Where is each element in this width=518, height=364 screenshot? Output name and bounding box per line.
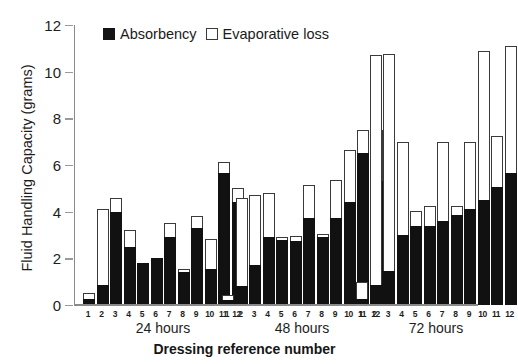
bar-segment-absorbency — [290, 241, 302, 305]
bar-segment-evaporative-loss — [397, 142, 409, 235]
y-tick-label: 2 — [53, 250, 61, 267]
y-tick-mark — [65, 165, 73, 166]
x-tick-label: 3 — [248, 309, 260, 319]
bar-segment-evaporative-loss — [249, 195, 261, 265]
x-tick-label: 7 — [302, 309, 314, 319]
y-tick-label: 6 — [53, 157, 61, 174]
x-tick-label: 2 — [369, 309, 381, 319]
y-tick-label: 10 — [44, 63, 61, 80]
bar[interactable] — [164, 223, 176, 305]
x-group-label: 72 hours — [355, 320, 517, 336]
bar[interactable] — [424, 206, 436, 305]
bar-segment-evaporative-loss — [424, 206, 436, 226]
bar-segment-absorbency — [330, 218, 342, 306]
x-tick-label: 7 — [163, 309, 175, 319]
x-tick-labels-24-hours: 123456789101112 — [82, 309, 244, 319]
bar-segment-absorbency — [424, 226, 436, 305]
bar[interactable] — [151, 258, 163, 305]
x-tick-label: 1 — [221, 309, 233, 319]
bar[interactable] — [290, 236, 302, 305]
bar[interactable] — [178, 269, 190, 305]
bar-segment-absorbency — [317, 237, 329, 305]
bar-segment-evaporative-loss — [164, 223, 176, 237]
x-axis-line — [74, 304, 478, 306]
x-tick-label: 11 — [490, 309, 502, 319]
bar-segment-absorbency — [137, 263, 149, 305]
bar-segment-evaporative-loss — [370, 55, 382, 285]
x-tick-label: 9 — [329, 309, 341, 319]
x-tick-label: 4 — [396, 309, 408, 319]
x-tick-label: 2 — [235, 309, 247, 319]
bar-segment-absorbency — [249, 265, 261, 305]
bar[interactable] — [505, 46, 517, 305]
x-tick-label: 6 — [150, 309, 162, 319]
bar[interactable] — [276, 237, 288, 305]
bar[interactable] — [236, 198, 248, 305]
x-group-label: 24 hours — [82, 320, 244, 336]
bar-segment-absorbency — [191, 228, 203, 305]
bar-segment-absorbency — [491, 187, 503, 305]
bar[interactable] — [356, 282, 368, 305]
bar-segment-absorbency — [478, 200, 490, 305]
x-tick-label: 12 — [504, 309, 516, 319]
x-tick-label: 1 — [82, 309, 94, 319]
bar-segment-absorbency — [410, 226, 422, 305]
bar[interactable] — [451, 206, 463, 305]
y-tick-label: 8 — [53, 110, 61, 127]
x-tick-label: 5 — [275, 309, 287, 319]
bar[interactable] — [191, 216, 203, 305]
bar-segment-absorbency — [164, 237, 176, 305]
bar[interactable] — [370, 55, 382, 305]
x-tick-label: 9 — [190, 309, 202, 319]
y-tick-mark — [65, 72, 73, 73]
x-tick-label: 3 — [382, 309, 394, 319]
bar-segment-absorbency — [124, 247, 136, 305]
bar-segment-absorbency — [263, 237, 275, 305]
bar-segment-evaporative-loss — [344, 150, 356, 203]
bar[interactable] — [205, 239, 217, 305]
bar-segment-absorbency — [276, 240, 288, 305]
x-tick-label: 6 — [289, 309, 301, 319]
bar-segment-evaporative-loss — [303, 185, 315, 218]
bar[interactable] — [410, 211, 422, 305]
bar[interactable] — [110, 198, 122, 305]
bar[interactable] — [344, 150, 356, 305]
bar[interactable] — [491, 136, 503, 305]
bar[interactable] — [249, 195, 261, 305]
x-tick-label: 5 — [136, 309, 148, 319]
y-axis-title: Fluid Handling Capacity (grams) — [19, 33, 35, 303]
bar[interactable] — [303, 185, 315, 305]
bar-segment-absorbency — [97, 285, 109, 305]
bar[interactable] — [263, 193, 275, 305]
bar-segment-evaporative-loss — [383, 54, 395, 271]
bar-segment-evaporative-loss — [236, 198, 248, 287]
legend-item-evaporative-loss: Evaporative loss — [206, 26, 329, 42]
x-axis-title: Dressing reference number — [0, 341, 489, 357]
bar[interactable] — [478, 51, 490, 305]
legend-item-absorbency: Absorbency — [103, 26, 197, 42]
bar-segment-absorbency — [236, 286, 248, 305]
bar[interactable] — [437, 142, 449, 305]
bar[interactable] — [383, 54, 395, 305]
x-tick-label: 1 — [355, 309, 367, 319]
bar[interactable] — [124, 230, 136, 305]
bar-segment-absorbency — [370, 285, 382, 305]
bar-segment-absorbency — [383, 271, 395, 305]
bar-segment-evaporative-loss — [437, 142, 449, 221]
bar[interactable] — [330, 180, 342, 305]
bar[interactable] — [97, 209, 109, 305]
bar-segment-evaporative-loss — [330, 180, 342, 217]
y-tick-mark — [65, 305, 73, 306]
bar-segment-evaporative-loss — [263, 193, 275, 237]
bar-segment-evaporative-loss — [505, 46, 517, 173]
bar[interactable] — [464, 142, 476, 305]
bar-segment-absorbency — [437, 221, 449, 305]
x-tick-label: 8 — [450, 309, 462, 319]
x-tick-label: 4 — [123, 309, 135, 319]
legend-swatch-filled-icon — [103, 28, 115, 40]
bar-segment-absorbency — [178, 272, 190, 305]
bar[interactable] — [137, 263, 149, 305]
bar[interactable] — [317, 234, 329, 305]
bar-segment-absorbency — [151, 258, 163, 305]
bar[interactable] — [397, 142, 409, 305]
